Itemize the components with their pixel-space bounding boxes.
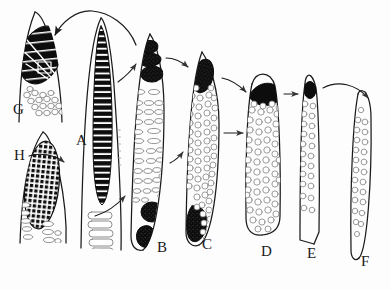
label-e: E [307, 245, 316, 262]
arrow-b-to-g [55, 11, 136, 45]
arrow-e-to-f [323, 84, 368, 98]
cell-c [186, 52, 219, 246]
label-f: F [361, 253, 369, 270]
cell-a-nucleus [93, 26, 112, 205]
cell-d [244, 74, 282, 235]
label-h: H [14, 147, 25, 164]
label-d: D [261, 243, 272, 260]
cell-d-granules [244, 101, 282, 232]
diagram-canvas [0, 0, 391, 290]
cell-h-nucleus [20, 139, 63, 230]
cell-f [351, 91, 371, 260]
cell-a-granules [88, 212, 113, 254]
label-g: G [13, 101, 24, 118]
cell-a [81, 18, 122, 254]
cell-h [20, 132, 66, 243]
cell-g-granules [24, 86, 65, 115]
cell-development-diagram: G A H B C D E F [0, 0, 391, 290]
arrow-c-to-d-top [222, 78, 246, 92]
arrow-b-to-c [166, 58, 188, 67]
arrow-a-to-b [118, 64, 136, 82]
label-a: A [76, 132, 87, 149]
cell-e [300, 75, 319, 244]
arrow-b2-to-c [170, 152, 183, 163]
cell-b [131, 34, 165, 250]
label-c: C [202, 236, 212, 253]
cell-e-nucleus-top [304, 82, 316, 99]
label-b: B [157, 239, 167, 256]
cell-g-nucleus [11, 20, 71, 91]
